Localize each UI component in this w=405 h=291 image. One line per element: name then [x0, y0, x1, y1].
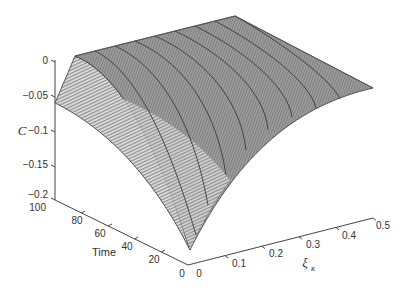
time-axis-label: Time [92, 246, 116, 258]
xi-axis-label: ξ κ [302, 255, 316, 273]
time-tick-label: 80 [71, 215, 83, 226]
xi-tick-label: 0.1 [232, 258, 246, 269]
svg-text:ξ: ξ [302, 255, 308, 270]
time-tick-label: 40 [121, 241, 133, 252]
xi-tick-label: 0 [196, 268, 202, 279]
z-ticks [51, 60, 55, 200]
z-tick-label: −0.1 [28, 125, 48, 136]
time-tick-label: 100 [29, 202, 46, 213]
z-tick-label: −0.15 [23, 159, 49, 170]
surface-plot: 0 −0.05 −0.1 −0.15 −0.2 100 80 60 40 20 … [0, 0, 405, 291]
z-tick-label: −0.2 [28, 189, 48, 200]
xi-tick-label: 0.3 [306, 239, 320, 250]
xi-tick-label: 0.2 [269, 248, 283, 259]
z-tick-label: −0.05 [23, 90, 49, 101]
time-tick-label: 0 [179, 268, 185, 279]
xi-tick-label: 0.4 [342, 230, 356, 241]
z-tick-label: 0 [42, 55, 48, 66]
time-tick-label: 60 [94, 228, 106, 239]
z-axis-label: C [18, 123, 27, 138]
surface-mesh [55, 16, 373, 250]
time-tick-label: 20 [148, 254, 160, 265]
xi-tick-label: 0.5 [376, 220, 390, 231]
svg-text:κ: κ [311, 263, 316, 273]
